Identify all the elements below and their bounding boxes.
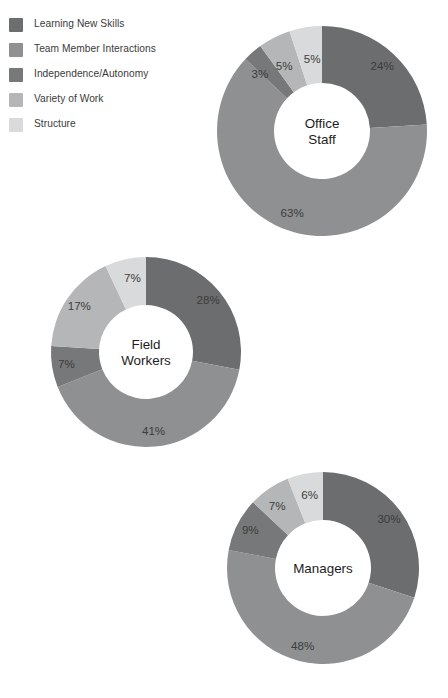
legend-item[interactable]: Team Member Interactions bbox=[9, 37, 199, 62]
color-swatch-icon bbox=[9, 43, 23, 57]
color-swatch-icon bbox=[9, 118, 23, 132]
donut-center-label: Staff bbox=[308, 132, 336, 147]
donut-slice-label: 17% bbox=[68, 299, 91, 312]
donut-slice-label: 5% bbox=[276, 59, 293, 72]
donut-slice-label: 30% bbox=[377, 512, 400, 525]
donut-slice-label: 9% bbox=[242, 523, 259, 536]
donut-slice-label: 24% bbox=[371, 59, 394, 72]
legend-item-label: Independence/Autonomy bbox=[34, 69, 148, 79]
donut-slice-label: 28% bbox=[196, 293, 219, 306]
donut-slice-label: 7% bbox=[124, 271, 141, 284]
donut-slice[interactable] bbox=[323, 472, 419, 598]
donut-slice-label: 3% bbox=[251, 67, 268, 80]
chart-legend: Learning New SkillsTeam Member Interacti… bbox=[9, 12, 199, 137]
donut-center-label: Office bbox=[305, 116, 340, 131]
legend-item-label: Learning New Skills bbox=[34, 19, 124, 29]
donut-slice-label: 63% bbox=[281, 206, 304, 219]
donut-slice-label: 48% bbox=[291, 639, 314, 652]
donut-slice-label: 6% bbox=[301, 488, 318, 501]
legend-item-label: Team Member Interactions bbox=[34, 44, 156, 54]
legend-item[interactable]: Structure bbox=[9, 112, 199, 137]
donut-slice-label: 7% bbox=[58, 357, 75, 370]
donut-center-label: Field bbox=[131, 337, 160, 352]
color-swatch-icon bbox=[9, 18, 23, 32]
legend-item[interactable]: Independence/Autonomy bbox=[9, 62, 199, 87]
color-swatch-icon bbox=[9, 68, 23, 82]
legend-item[interactable]: Variety of Work bbox=[9, 87, 199, 112]
donut-center-label: Workers bbox=[121, 353, 171, 368]
donut-slice-label: 41% bbox=[142, 424, 165, 437]
donut-chart-managers: 30%48%9%7%6%Managers bbox=[193, 438, 448, 698]
donut-slice-label: 7% bbox=[269, 499, 286, 512]
legend-item-label: Variety of Work bbox=[34, 94, 103, 104]
donut-center-label: Managers bbox=[293, 561, 353, 576]
color-swatch-icon bbox=[9, 93, 23, 107]
legend-item[interactable]: Learning New Skills bbox=[9, 12, 199, 37]
donut-slice-label: 5% bbox=[304, 52, 321, 65]
donut-slice[interactable] bbox=[322, 26, 427, 128]
legend-item-label: Structure bbox=[34, 119, 76, 129]
chart-canvas: Learning New SkillsTeam Member Interacti… bbox=[0, 0, 448, 698]
